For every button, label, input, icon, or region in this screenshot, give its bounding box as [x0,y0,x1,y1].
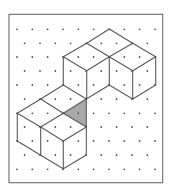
grid-dot [16,168,18,170]
grid-dot [108,84,110,86]
grid-dot [31,112,33,114]
grid-dot [85,98,87,100]
grid-dot [93,84,95,86]
grid-dot [39,154,41,156]
grid-dot [139,168,141,170]
grid-dot [100,154,102,156]
grid-dot [108,140,110,142]
grid-dot [47,140,49,142]
grid-dot [123,140,125,142]
grid-dot [131,98,133,100]
grid-dot [39,70,41,72]
grid-dot [116,70,118,72]
grid-dot [85,42,87,44]
grid-dot [31,140,33,142]
grid-dot [93,56,95,58]
grid-dot [62,140,64,142]
grid-dot [154,168,156,170]
grid-dot [108,168,110,170]
grid-dot [85,154,87,156]
grid-dot [154,140,156,142]
grid-dot [77,112,79,114]
grid-dot [16,140,18,142]
grid-dot [70,98,72,100]
grid-dot [116,42,118,44]
grid-dot [16,56,18,58]
grid-dot [54,98,56,100]
grid-dot [31,56,33,58]
grid-dot [100,42,102,44]
grid-dot [62,112,64,114]
grid-dot [47,168,49,170]
grid-dot [77,28,79,30]
grid-dot [100,126,102,128]
grid-dot [77,168,79,170]
grid-dot [54,70,56,72]
grid-dot [54,126,56,128]
grid-dot [31,84,33,86]
grid-dot [31,28,33,30]
grid-dot [154,28,156,30]
grid-dot [16,28,18,30]
grid-dot [93,168,95,170]
grid-dot [123,28,125,30]
grid-dot [108,112,110,114]
grid-dot [108,56,110,58]
grid-dot [139,28,141,30]
grid-dot [47,28,49,30]
grid-dot [77,140,79,142]
grid-dot [62,28,64,30]
grid-dot [154,112,156,114]
grid-dot [54,42,56,44]
grid-dot [62,56,64,58]
grid-dot [123,112,125,114]
grid-dot [131,126,133,128]
grid-dot [146,70,148,72]
grid-dot [24,154,26,156]
grid-dot [70,42,72,44]
grid-dot [24,42,26,44]
grid-dot [47,56,49,58]
grid-dot [62,168,64,170]
grid-dot [139,84,141,86]
grid-dot [31,168,33,170]
grid-dot [85,70,87,72]
grid-dot [77,56,79,58]
grid-dot [47,112,49,114]
grid-dot [16,84,18,86]
grid-dot [47,84,49,86]
grid-dot [100,98,102,100]
grid-dot [54,154,56,156]
grid-dot [131,154,133,156]
grid-dot [93,112,95,114]
grid-dot [116,126,118,128]
grid-dot [62,84,64,86]
grid-dot [93,140,95,142]
diagram-canvas [0,0,170,191]
grid-dot [100,70,102,72]
grid-dot [154,56,156,58]
grid-dot [123,56,125,58]
grid-dot [139,140,141,142]
grid-dot [146,42,148,44]
grid-dot [116,98,118,100]
grid-dot [16,112,18,114]
grid-dot [108,28,110,30]
grid-dot [116,154,118,156]
grid-dot [70,70,72,72]
grid-dot [123,168,125,170]
grid-dot [93,28,95,30]
grid-dot [77,84,79,86]
grid-dot [123,84,125,86]
grid-dot [39,126,41,128]
grid-dot [39,98,41,100]
grid-dot [139,56,141,58]
grid-dot [139,112,141,114]
grid-dot [146,126,148,128]
grid-dot [24,70,26,72]
grid-dot [131,42,133,44]
grid-dot [146,154,148,156]
grid-dot [146,98,148,100]
grid-dot [24,98,26,100]
grid-dot [39,42,41,44]
